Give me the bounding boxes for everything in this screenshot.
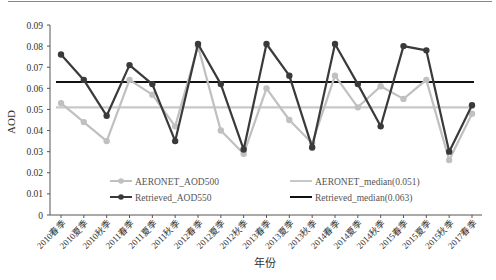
data-point [355,81,361,87]
y-tick-label: 0.08 [26,42,43,52]
data-point [286,117,292,123]
data-point [149,81,155,87]
legend: AERONET_AOD500Retrieved_AOD550AERONET_me… [110,177,420,204]
data-point [446,148,452,154]
data-point [377,83,383,89]
data-point [81,119,87,125]
data-point [195,41,201,47]
y-tick-label: 0.07 [26,63,43,73]
data-point [469,102,475,108]
data-point [240,146,246,152]
y-tick-label: 0.09 [26,21,43,31]
data-point [218,127,224,133]
y-tick-label: 0.06 [26,84,43,94]
data-point [103,138,109,144]
data-point [263,41,269,47]
data-point [172,138,178,144]
data-point [58,100,64,106]
legend-label: AERONET_AOD500 [135,177,219,187]
data-point [81,77,87,83]
y-axis-label: AOD [5,110,17,134]
y-tick-label: 0.02 [26,168,43,178]
series-line [61,46,472,160]
data-point [103,113,109,119]
legend-label: Retrieved_AOD550 [135,193,212,203]
data-point [355,104,361,110]
data-point [126,62,132,68]
data-point [423,47,429,53]
data-point [377,123,383,129]
y-tick-label: 0.01 [26,189,43,199]
data-point [263,85,269,91]
data-point [400,96,406,102]
data-point [218,81,224,87]
data-point [309,144,315,150]
y-tick-label: 0.05 [26,105,43,115]
data-point [286,72,292,78]
y-tick-label: 0.04 [26,126,43,136]
y-tick-label: 0.03 [26,147,43,157]
x-axis-label: 年份 [254,256,276,269]
data-point [400,43,406,49]
legend-marker [118,178,124,184]
legend-marker [118,194,124,200]
data-point [446,157,452,163]
legend-label: Retrieved_median(0.063) [315,193,412,204]
data-point [126,77,132,83]
axes: 00.010.020.030.040.050.060.070.080.09201… [26,21,482,251]
y-tick-label: 0 [38,211,43,221]
data-point [58,51,64,57]
legend-label: AERONET_median(0.051) [315,177,420,188]
data-point [332,72,338,78]
data-point [423,77,429,83]
series-lines [56,41,475,164]
data-point [332,41,338,47]
aod-line-chart: 00.010.020.030.040.050.060.070.080.09201… [0,0,496,280]
